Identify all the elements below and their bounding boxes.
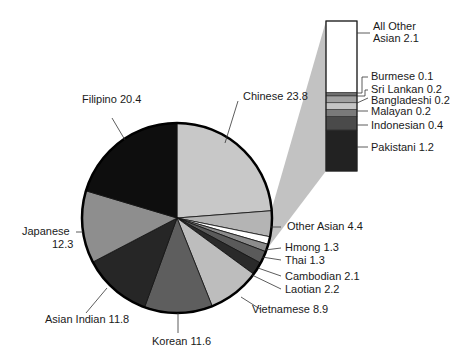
label-filipino: Filipino 20.4 xyxy=(82,93,141,106)
bar-segment-all-other-asian xyxy=(326,21,357,93)
label-indonesian: Indonesian 0.4 xyxy=(371,119,443,132)
label-laotian: Laotian 2.2 xyxy=(285,283,339,296)
label-other-asian: Other Asian 4.4 xyxy=(287,220,363,233)
label-vietnamese: Vietnamese 8.9 xyxy=(252,303,328,316)
bar-segment-burmese xyxy=(326,93,357,96)
breakout-connector xyxy=(270,21,326,245)
bar-segment-bangladeshi xyxy=(326,103,357,110)
label-japanese: Japanese xyxy=(22,225,70,238)
label-chinese: Chinese 23.8 xyxy=(243,90,308,103)
label-asian-indian: Asian Indian 11.8 xyxy=(45,313,129,326)
bar-segment-pakistani xyxy=(326,130,357,171)
bar-segment-indonesian xyxy=(326,116,357,130)
pie-slice-chinese xyxy=(177,123,272,218)
label-burmese: Burmese 0.1 xyxy=(371,70,433,83)
label-cambodian: Cambodian 2.1 xyxy=(285,270,360,283)
label-japanese-value: 12.3 xyxy=(52,238,73,251)
pie-chart xyxy=(0,0,469,363)
label-korean: Korean 11.6 xyxy=(152,335,211,348)
breakout-bar xyxy=(326,21,357,171)
bar-segment-sri-lankan xyxy=(326,96,357,103)
label-pakistani: Pakistani 1.2 xyxy=(371,141,434,154)
label-thai: Thai 1.3 xyxy=(285,254,325,267)
label-hmong: Hmong 1.3 xyxy=(285,241,339,254)
label-malayan: Malayan 0.2 xyxy=(371,105,431,118)
label-all-other-asian-value: Asian 2.1 xyxy=(373,32,419,45)
bar-segment-malayan xyxy=(326,110,357,117)
